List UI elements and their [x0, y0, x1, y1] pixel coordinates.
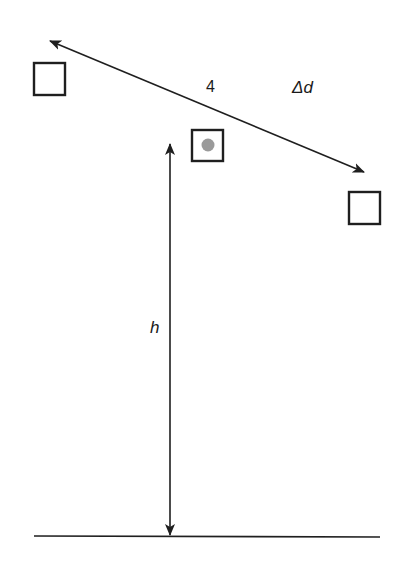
displacement-arrow [50, 41, 364, 172]
delta-symbol: Δ [291, 78, 303, 97]
diagram-canvas: 4 Δd h [0, 0, 419, 561]
center-dot [202, 139, 215, 152]
left-square [34, 63, 65, 95]
count-label: 4 [206, 78, 215, 95]
delta-d-label: Δd [291, 78, 313, 97]
delta-variable: d [303, 78, 313, 97]
height-label: h [150, 318, 159, 337]
ground-line [34, 536, 380, 537]
right-square [349, 192, 380, 224]
